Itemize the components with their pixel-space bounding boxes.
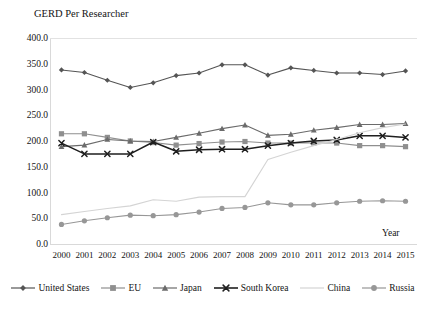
diamond-marker: [105, 78, 110, 83]
diamond-marker: [265, 72, 270, 77]
circle-marker: [174, 212, 179, 217]
square-marker: [403, 144, 408, 149]
diamond-marker: [242, 62, 247, 67]
circle-marker: [403, 199, 408, 204]
diamond-marker: [128, 85, 133, 90]
diamond-marker: [311, 68, 316, 73]
legend-item-russia[interactable]: Russia: [361, 283, 414, 294]
diamond-marker: [82, 70, 87, 75]
legend-item-united-states[interactable]: United States: [10, 283, 89, 294]
legend-label: United States: [38, 283, 89, 294]
diamond-marker: [288, 65, 293, 70]
line-icon: [299, 283, 325, 293]
diamond-marker: [357, 70, 362, 75]
circle-marker: [82, 218, 87, 223]
circle-marker: [380, 198, 385, 203]
chart-legend: United StatesEUJapanSouth KoreaChinaRuss…: [0, 276, 425, 300]
square-marker: [242, 139, 247, 144]
square-marker: [357, 143, 362, 148]
square-marker: [174, 143, 179, 148]
diamond-marker: [21, 285, 27, 291]
legend-label: EU: [128, 283, 141, 294]
legend-item-eu[interactable]: EU: [100, 283, 141, 294]
legend-item-china[interactable]: China: [299, 283, 350, 294]
circle-marker: [288, 202, 293, 207]
circle-marker: [371, 285, 377, 291]
square-marker: [380, 143, 385, 148]
circle-marker: [59, 222, 64, 227]
series-russia: [59, 198, 408, 227]
square-icon: [100, 283, 126, 293]
circle-marker: [219, 206, 224, 211]
circle-marker: [105, 215, 110, 220]
circle-marker: [128, 213, 133, 218]
triangle-marker: [242, 122, 248, 127]
diamond-marker: [219, 62, 224, 67]
x-axis-title: Year: [382, 228, 400, 238]
gerd-per-researcher-chart: GERD Per Researcher 400.0350.0300.0250.0…: [0, 0, 425, 311]
square-marker: [82, 131, 87, 136]
diamond-marker: [174, 73, 179, 78]
legend-item-japan[interactable]: Japan: [152, 283, 202, 294]
diamond-marker: [334, 70, 339, 75]
circle-marker: [196, 209, 201, 214]
legend-label: Russia: [389, 283, 414, 294]
triangle-icon: [152, 283, 178, 293]
diamond-marker: [59, 67, 64, 72]
legend-label: Japan: [180, 283, 202, 294]
square-marker: [219, 139, 224, 144]
square-marker: [59, 131, 64, 136]
circle-marker: [265, 200, 270, 205]
circle-marker: [357, 199, 362, 204]
legend-label: South Korea: [241, 283, 289, 294]
circle-marker: [151, 213, 156, 218]
plot-series-layer: [0, 0, 425, 311]
square-marker: [196, 141, 201, 146]
diamond-marker: [196, 70, 201, 75]
diamond-icon: [10, 283, 36, 293]
legend-item-south-korea[interactable]: South Korea: [213, 283, 289, 294]
circle-marker: [334, 200, 339, 205]
diamond-marker: [403, 68, 408, 73]
legend-label: China: [327, 283, 350, 294]
diamond-marker: [151, 80, 156, 85]
circle-marker: [311, 202, 316, 207]
circle-icon: [361, 283, 387, 293]
x-icon: [213, 283, 239, 293]
circle-marker: [242, 205, 247, 210]
diamond-marker: [380, 72, 385, 77]
series-united-states: [59, 62, 408, 90]
square-marker: [111, 285, 117, 291]
